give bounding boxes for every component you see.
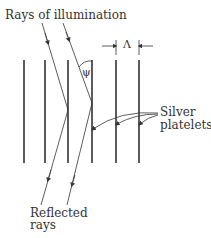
silver-label-line2: platelets xyxy=(160,119,211,132)
reflected-label-line2: rays xyxy=(30,219,56,232)
illumination-label: Rays of illumination xyxy=(5,9,127,22)
spacing-symbol: Λ xyxy=(123,38,131,51)
reflected-rays xyxy=(41,103,92,205)
platelet-pointers xyxy=(93,113,158,129)
angle-symbol: ψ xyxy=(82,66,91,79)
diagram-canvas: Rays of illumination Λ ψ Silver platelet… xyxy=(0,0,211,238)
